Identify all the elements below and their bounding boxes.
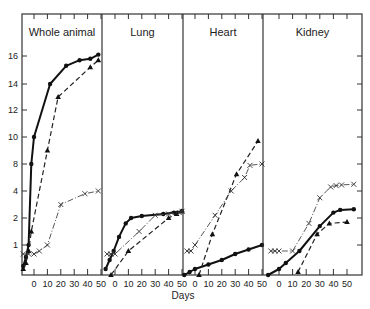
circle-marker-icon [297, 249, 301, 253]
panels: Whole animal01020304050Lung01020304050He… [20, 14, 356, 289]
triangle-marker-icon [45, 148, 51, 153]
circle-marker-icon [140, 214, 144, 218]
triangle-marker-icon [255, 138, 261, 143]
panel-title: Kidney [296, 26, 330, 38]
y-tick-label: 10 [8, 132, 18, 142]
y-tick-label: 14 [8, 79, 18, 89]
circle-marker-icon [64, 64, 68, 68]
circle-marker-icon [77, 58, 81, 62]
x-tick-label: 20 [56, 279, 66, 289]
series-circles [103, 209, 184, 271]
cross-marker-icon [82, 191, 87, 196]
y-tick-label: 1 [13, 240, 18, 250]
cross-marker-icon [317, 195, 322, 200]
circle-marker-icon [96, 52, 100, 56]
cross-marker-icon [242, 175, 247, 180]
x-axis-label: Days [172, 290, 195, 301]
triangle-marker-icon [344, 219, 350, 224]
circle-marker-icon [246, 247, 250, 251]
circle-marker-icon [266, 273, 270, 277]
circle-marker-icon [88, 57, 92, 61]
y-tick-label: 4 [13, 186, 18, 196]
series-crosses [21, 189, 101, 257]
series-triangles [108, 208, 185, 277]
circle-marker-icon [277, 267, 281, 271]
circle-marker-icon [193, 267, 197, 271]
panel-title: Heart [210, 26, 237, 38]
panel-lung: Lung01020304050 [102, 14, 187, 289]
x-tick-label: 50 [257, 279, 267, 289]
x-tick-label: 40 [83, 279, 93, 289]
x-tick-label: 50 [177, 279, 187, 289]
circle-marker-icon [352, 207, 356, 211]
circle-marker-icon [338, 208, 342, 212]
x-tick-label: 0 [31, 279, 36, 289]
cross-marker-icon [339, 182, 344, 187]
circle-marker-icon [48, 82, 52, 86]
cross-marker-icon [290, 249, 295, 254]
x-tick-label: 10 [123, 279, 133, 289]
circle-marker-icon [233, 252, 237, 256]
x-tick-label: 0 [276, 279, 281, 289]
cross-marker-icon [277, 249, 282, 254]
circle-marker-icon [187, 270, 191, 274]
series-line [23, 191, 98, 254]
circle-marker-icon [182, 273, 186, 277]
x-tick-label: 20 [301, 279, 311, 289]
circle-marker-icon [117, 235, 121, 239]
panel-title: Whole animal [29, 26, 96, 38]
series-line [111, 211, 182, 275]
x-tick-label: 30 [230, 279, 240, 289]
x-tick-label: 30 [69, 279, 79, 289]
y-tick-label: 12 [8, 105, 18, 115]
x-tick-label: 30 [150, 279, 160, 289]
circle-marker-icon [220, 258, 224, 262]
circle-marker-icon [124, 221, 128, 225]
cross-marker-icon [193, 243, 198, 248]
x-tick-label: 50 [96, 279, 106, 289]
triangle-marker-icon [96, 57, 102, 62]
cross-marker-icon [58, 202, 63, 207]
series-line [23, 60, 98, 269]
circle-marker-icon [32, 135, 36, 139]
triangle-marker-icon [295, 269, 301, 274]
circle-marker-icon [161, 212, 165, 216]
x-tick-label: 40 [244, 279, 254, 289]
panel-heart: Heart01020304050 [182, 14, 267, 289]
triangle-marker-icon [234, 171, 240, 176]
cross-marker-icon [213, 213, 218, 218]
circle-marker-icon [107, 258, 111, 262]
x-tick-label: 10 [203, 279, 213, 289]
series-crosses [184, 162, 264, 254]
circle-marker-icon [331, 210, 335, 214]
chart: 124810121416 Whole animal01020304050Lung… [0, 0, 370, 309]
y-axis: 124810121416 [8, 51, 362, 250]
cross-marker-icon [328, 184, 333, 189]
x-tick-label: 0 [192, 279, 197, 289]
series-line [187, 164, 262, 251]
cross-marker-icon [306, 221, 311, 226]
series-circles [182, 243, 264, 277]
series-line [271, 184, 354, 251]
x-tick-label: 10 [42, 279, 52, 289]
triangle-marker-icon [210, 231, 216, 236]
x-tick-label: 20 [137, 279, 147, 289]
y-tick-label: 16 [8, 51, 18, 61]
x-tick-label: 40 [164, 279, 174, 289]
series-line [23, 55, 98, 266]
panel-title: Lung [130, 26, 154, 38]
circle-marker-icon [103, 267, 107, 271]
circle-marker-icon [29, 162, 33, 166]
x-tick-label: 10 [288, 279, 298, 289]
x-tick-label: 50 [342, 279, 352, 289]
x-tick-label: 20 [217, 279, 227, 289]
cross-marker-icon [37, 249, 42, 254]
y-tick-label: 8 [13, 159, 18, 169]
circle-marker-icon [129, 216, 133, 220]
series-circles [21, 52, 100, 268]
x-tick-label: 0 [112, 279, 117, 289]
triangle-marker-icon [87, 64, 93, 69]
y-tick-label: 2 [13, 213, 18, 223]
panel-whole-animal: Whole animal01020304050 [20, 14, 106, 289]
cross-marker-icon [137, 229, 142, 234]
